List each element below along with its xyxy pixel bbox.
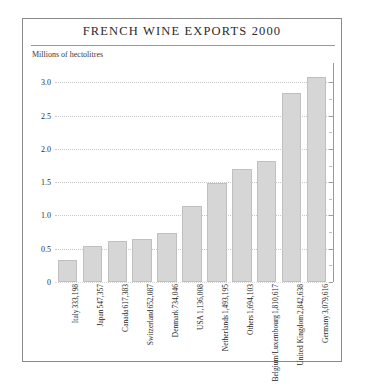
bar — [108, 241, 127, 282]
bar — [182, 206, 201, 282]
bar — [207, 183, 226, 282]
x-axis-value-label: 1,493,195 — [222, 284, 231, 314]
x-axis-value-label: 3,079,616 — [322, 284, 331, 314]
chart-title: FRENCH WINE EXPORTS 2000 — [23, 24, 341, 39]
right-axis-tick — [329, 265, 332, 266]
x-axis-value-label: 2,842,638 — [297, 284, 306, 314]
x-axis-label: Netherlands1,493,195 — [222, 284, 231, 351]
bar — [157, 233, 176, 282]
x-axis-category-name: Japan — [97, 309, 106, 326]
bar — [83, 246, 102, 282]
x-axis-value-label: 734,046 — [172, 284, 181, 308]
y-axis-tick-label: 2.0 — [41, 144, 51, 153]
right-axis-tick — [329, 232, 332, 233]
bar — [307, 77, 326, 282]
x-axis-value-label: 617,383 — [122, 284, 131, 308]
bar — [282, 93, 301, 282]
bar-series — [55, 69, 329, 282]
title-divider — [31, 45, 335, 46]
x-axis-value-label: 1,810,617 — [272, 284, 281, 314]
x-axis-value-label: 547,357 — [97, 284, 106, 308]
x-axis-category-name: Switzerland — [147, 309, 156, 345]
x-axis-value-label: 652,087 — [147, 284, 156, 308]
y-axis-tick-label: 2.5 — [41, 111, 51, 120]
x-axis-label: Switzerland652,087 — [147, 284, 156, 345]
x-axis-label: Denmark734,046 — [172, 284, 181, 337]
y-axis-unit-caption: Millions of hectolitres — [32, 50, 103, 59]
x-axis-label: Germany3,079,616 — [322, 284, 331, 343]
x-axis-label: Others1,694,103 — [247, 284, 256, 335]
x-axis-category-name: Netherlands — [222, 315, 231, 351]
x-axis-label: Italy333,198 — [72, 284, 81, 323]
x-axis-value-label: 1,136,008 — [197, 284, 206, 314]
title-block: FRENCH WINE EXPORTS 2000 — [23, 19, 341, 46]
x-axis-label: Japan547,357 — [97, 284, 106, 326]
x-axis-value-label: 1,694,103 — [247, 284, 256, 314]
x-axis-category-name: USA — [197, 315, 206, 330]
x-axis-label: USA1,136,008 — [197, 284, 206, 330]
y-axis-tick-label: 1.5 — [41, 178, 51, 187]
x-axis-label: Belgium/Luxembourg1,810,617 — [272, 284, 281, 382]
right-axis-tick — [329, 199, 332, 200]
right-axis-line — [333, 63, 334, 282]
x-axis-category-name: Belgium/Luxembourg — [272, 315, 281, 382]
plot-area: 3.02.52.01.51.00.50 — [55, 69, 329, 282]
x-axis-value-label: 333,198 — [72, 284, 81, 308]
x-axis-category-name: Others — [247, 315, 256, 335]
right-axis-tick — [329, 99, 332, 100]
x-axis-category-name: Canada — [122, 309, 131, 332]
x-axis-labels: Italy333,198Japan547,357Canada617,383Swi… — [55, 284, 329, 362]
y-axis-tick-label: 3.0 — [41, 78, 51, 87]
y-axis-tick-label: 1.0 — [41, 211, 51, 220]
bar — [132, 239, 151, 282]
gridline — [55, 282, 329, 283]
x-axis-label: Canada617,383 — [122, 284, 131, 332]
right-axis-tick — [329, 282, 333, 283]
x-axis-category-name: Italy — [72, 309, 81, 323]
bar — [58, 260, 77, 282]
y-axis-tick-label: 0 — [47, 278, 51, 287]
x-axis-category-name: Germany — [322, 315, 331, 343]
bar — [232, 169, 251, 282]
x-axis-category-name: United Kingdom — [297, 315, 306, 366]
x-axis-label: United Kingdom2,842,638 — [297, 284, 306, 366]
x-axis-category-name: Denmark — [172, 309, 181, 337]
chart-figure: FRENCH WINE EXPORTS 2000 Millions of hec… — [22, 18, 342, 362]
right-axis-tick — [329, 166, 332, 167]
y-axis-tick-label: 0.5 — [41, 244, 51, 253]
bar — [257, 161, 276, 282]
right-axis-tick — [329, 132, 332, 133]
